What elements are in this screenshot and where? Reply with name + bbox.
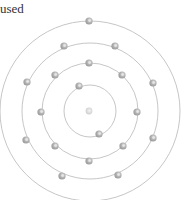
electron-icon <box>95 130 102 137</box>
electron-icon <box>51 142 58 149</box>
electron-icon <box>37 108 44 115</box>
electron-icon <box>75 82 82 89</box>
electron-icon <box>119 142 126 149</box>
electron-icon <box>118 71 125 78</box>
electron-icon <box>114 171 121 178</box>
electron-icon <box>23 78 30 85</box>
atom-diagram <box>0 0 184 200</box>
nucleus-icon <box>86 108 93 115</box>
electron-icon <box>85 17 92 24</box>
electron-icon <box>111 42 118 49</box>
electron-icon <box>85 157 92 164</box>
electron-icon <box>22 136 29 143</box>
electron-icon <box>149 79 156 86</box>
electron-icon <box>58 172 65 179</box>
electron-icon <box>51 71 58 78</box>
electron-icon <box>133 108 140 115</box>
electron-icon <box>85 59 92 66</box>
electron-icon <box>149 134 156 141</box>
electron-icon <box>60 42 67 49</box>
nucleus <box>86 108 93 115</box>
